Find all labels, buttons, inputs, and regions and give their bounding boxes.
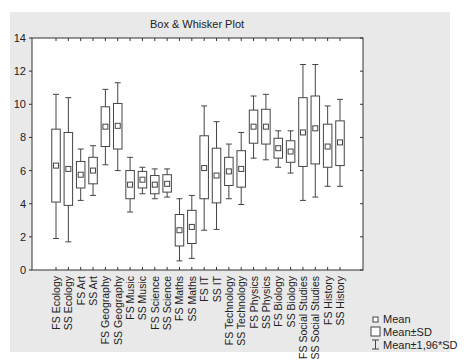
mean-marker	[263, 124, 268, 129]
x-category-label: FS Art	[75, 276, 87, 305]
box-whisker-chart: Box & Whisker Plot 02468101214 FS Ecolog…	[0, 0, 464, 363]
mean-marker	[91, 168, 96, 173]
x-category-label: SS History	[334, 275, 346, 325]
mean-marker	[288, 149, 293, 154]
legend-label: Mean±1,96*SD	[383, 339, 458, 351]
x-category-label: FS IT	[198, 275, 210, 301]
chart-title: Box & Whisker Plot	[150, 18, 244, 30]
mean-marker	[202, 166, 207, 171]
x-category-label: FS Physics	[248, 276, 260, 329]
mean-marker	[66, 166, 71, 171]
x-category-label: FS Biology	[272, 275, 284, 327]
x-category-label: SS IT	[211, 275, 223, 302]
x-category-label: FS Technology	[223, 275, 235, 345]
x-category-label: FS History	[322, 275, 334, 325]
mean-marker	[239, 166, 244, 171]
mean-marker	[214, 173, 219, 178]
mean-marker	[251, 124, 256, 129]
x-category-label: SS Music	[136, 276, 148, 320]
y-tick-label: 14	[14, 32, 26, 44]
y-tick-label: 4	[20, 198, 26, 210]
x-category-label: FS Science	[149, 276, 161, 330]
y-tick-label: 8	[20, 131, 26, 143]
x-category-label: SS Maths	[186, 276, 198, 322]
x-category-label: SS Ecology	[62, 275, 74, 330]
y-tick-label: 6	[20, 165, 26, 177]
mean-marker	[325, 144, 330, 149]
mean-marker	[300, 130, 305, 135]
x-category-label: SS Science	[161, 276, 173, 330]
mean-marker	[189, 224, 194, 229]
mean-marker	[165, 181, 170, 186]
x-category-label: FS Geography	[99, 275, 111, 344]
x-category-label: SS Social Studies	[309, 276, 321, 359]
y-tick-label: 2	[20, 231, 26, 243]
mean-marker	[128, 182, 133, 187]
x-category-label: SS Biology	[285, 275, 297, 327]
mean-marker	[152, 182, 157, 187]
mean-marker	[78, 172, 83, 177]
mean-marker	[276, 146, 281, 151]
mean-marker	[338, 140, 343, 145]
chart-frame: Box & Whisker Plot 02468101214 FS Ecolog…	[0, 0, 464, 363]
mean-marker	[140, 177, 145, 182]
x-category-label: SS Geography	[112, 275, 124, 345]
mean-marker	[54, 163, 59, 168]
x-category-label: FS Ecology	[50, 275, 62, 329]
x-category-label: FS Music	[124, 276, 136, 320]
y-tick-label: 10	[14, 98, 26, 110]
legend-label: Mean	[383, 313, 411, 325]
mean-marker	[226, 169, 231, 174]
x-category-label: FS Maths	[173, 276, 185, 321]
legend-mean-icon	[373, 317, 378, 322]
legend-label: Mean±SD	[383, 326, 432, 338]
mean-marker	[177, 228, 182, 233]
legend: MeanMean±SDMean±1,96*SD	[371, 313, 458, 351]
y-tick-label: 12	[14, 65, 26, 77]
y-tick-label: 0	[20, 264, 26, 276]
mean-marker	[115, 123, 120, 128]
mean-marker	[103, 124, 108, 129]
x-category-label: FS Social Studies	[297, 276, 309, 359]
legend-box-icon	[371, 327, 380, 336]
x-category-label: SS Art	[87, 276, 99, 306]
x-category-label: SS Physics	[260, 276, 272, 329]
x-category-label: SS Technology	[235, 275, 247, 346]
mean-marker	[313, 126, 318, 131]
